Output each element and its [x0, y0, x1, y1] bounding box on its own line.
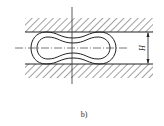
height-dimension: H [138, 32, 150, 64]
dimension-label: H [138, 44, 147, 52]
bottom-wall [25, 64, 153, 78]
figure-caption: b) [74, 110, 94, 119]
diagram: H [0, 0, 164, 126]
top-wall [25, 18, 153, 32]
